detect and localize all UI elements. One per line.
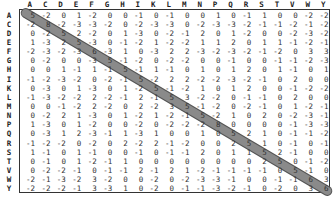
matrix-cell: 0 — [83, 166, 97, 175]
matrix-cell: -1 — [145, 166, 159, 175]
matrix-cell: -3 — [98, 47, 112, 56]
matrix-cell: -1 — [129, 11, 143, 20]
matrix-cell: 3 — [83, 175, 97, 184]
row-header-f: F — [2, 47, 16, 56]
matrix-cell: 5 — [237, 139, 251, 148]
matrix-cell: 0 — [237, 56, 251, 65]
matrix-cell: 1 — [222, 111, 236, 120]
matrix-cell: -2 — [191, 93, 205, 102]
matrix-cell: 1 — [67, 157, 81, 166]
matrix-cell: -2 — [83, 11, 97, 20]
matrix-cell: -2 — [284, 29, 298, 38]
matrix-cell: -2 — [176, 38, 190, 47]
matrix-cell: -2 — [176, 120, 190, 129]
matrix-cell: 0 — [176, 129, 190, 138]
matrix-cell: -1 — [114, 38, 128, 47]
matrix-cell: 5 — [114, 65, 128, 74]
matrix-cell: -2 — [237, 102, 251, 111]
matrix-cell: -3 — [191, 47, 205, 56]
matrix-cell: -2 — [206, 93, 220, 102]
row-header-n: N — [2, 111, 16, 120]
matrix-cell: 0 — [206, 65, 220, 74]
matrix-cell: 1 — [253, 38, 267, 47]
matrix-cell: 0 — [176, 65, 190, 74]
matrix-cell: -2 — [36, 75, 50, 84]
matrix-cell: 0 — [21, 111, 35, 120]
matrix-cell: 0 — [206, 29, 220, 38]
matrix-cell: -1 — [114, 93, 128, 102]
matrix-cell: 0 — [268, 93, 282, 102]
matrix-cell: -1 — [160, 65, 174, 74]
matrix-cell: 0 — [206, 148, 220, 157]
matrix-cell: 0 — [284, 47, 298, 56]
matrix-cell: 0 — [253, 56, 267, 65]
matrix-cell: -3 — [67, 47, 81, 56]
matrix-cell: -1 — [36, 157, 50, 166]
matrix-cell: 5 — [160, 93, 174, 102]
matrix-cell: 2 — [67, 29, 81, 38]
matrix-cell: 2 — [129, 102, 143, 111]
column-header-w: W — [300, 0, 315, 9]
matrix-cell: 2 — [284, 93, 298, 102]
matrix-cell: 0 — [253, 175, 267, 184]
matrix-cell: 0 — [268, 75, 282, 84]
matrix-cell: -1 — [21, 139, 35, 148]
matrix-cell: 0 — [315, 166, 329, 175]
matrix-cell: 0 — [299, 75, 313, 84]
matrix-cell: 0 — [176, 20, 190, 29]
matrix-cell: 1 — [114, 111, 128, 120]
matrix-cell: -2 — [129, 20, 143, 29]
matrix-cell: 2 — [237, 65, 251, 74]
matrix-cell: 0 — [36, 102, 50, 111]
matrix-cell: 0 — [98, 84, 112, 93]
matrix-cell: 0 — [253, 184, 267, 193]
matrix-cell: 0 — [98, 148, 112, 157]
matrix-cell: -1 — [21, 75, 35, 84]
row-header-v: V — [2, 166, 16, 175]
row-header-h: H — [2, 65, 16, 74]
matrix-cell: -1 — [36, 148, 50, 157]
matrix-cell: 0 — [191, 139, 205, 148]
column-header-r: R — [238, 0, 253, 9]
matrix-cell: -2 — [36, 29, 50, 38]
matrix-cell: -2 — [21, 184, 35, 193]
matrix-cell: -3 — [191, 175, 205, 184]
matrix-cell: 2 — [129, 166, 143, 175]
matrix-cell: 5 — [268, 157, 282, 166]
matrix-cell: -3 — [160, 20, 174, 29]
matrix-cell: 0 — [21, 166, 35, 175]
column-header-y: Y — [316, 0, 331, 9]
matrix-cell: 0 — [268, 120, 282, 129]
matrix-cell: 1 — [67, 111, 81, 120]
matrix-cell: 0 — [299, 93, 313, 102]
matrix-cell: 1 — [114, 47, 128, 56]
matrix-cell: 0 — [21, 29, 35, 38]
matrix-cell: -1 — [268, 20, 282, 29]
matrix-cell: 0 — [268, 129, 282, 138]
matrix-cell: -2 — [237, 29, 251, 38]
matrix-cell: 0 — [315, 93, 329, 102]
column-header-t: T — [269, 0, 284, 9]
matrix-cell: -1 — [160, 11, 174, 20]
matrix-cell: -2 — [315, 29, 329, 38]
matrix-cell: 2 — [160, 166, 174, 175]
matrix-cell: -2 — [176, 56, 190, 65]
matrix-cell: -2 — [129, 56, 143, 65]
matrix-cell: -3 — [36, 47, 50, 56]
matrix-cell: 1 — [191, 65, 205, 74]
matrix-cell: 0 — [21, 84, 35, 93]
matrix-cell: -1 — [315, 102, 329, 111]
matrix-cell: -3 — [52, 175, 66, 184]
matrix-cell: -3 — [206, 20, 220, 29]
matrix-cell: 0 — [129, 175, 143, 184]
row-header-y: Y — [2, 184, 16, 193]
matrix-cell: -1 — [52, 102, 66, 111]
matrix-cell: -3 — [129, 129, 143, 138]
row-header-m: M — [2, 102, 16, 111]
matrix-cell: -1 — [284, 84, 298, 93]
matrix-cell: -1 — [176, 111, 190, 120]
matrix-cell: -1 — [237, 11, 251, 20]
matrix-cell: -3 — [315, 56, 329, 65]
matrix-cell: 1 — [21, 38, 35, 47]
matrix-cell: 1 — [114, 84, 128, 93]
